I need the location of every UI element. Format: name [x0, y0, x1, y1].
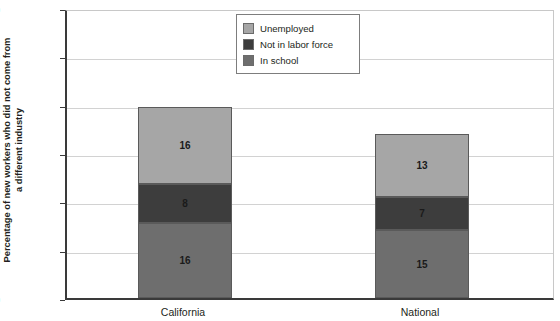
bar-segment[interactable]: 13 [375, 134, 469, 197]
y-axis-title: Percentage of new workers who did not co… [0, 0, 26, 300]
bar-value-label: 16 [179, 255, 190, 266]
legend-item-label: Not in labor force [260, 39, 333, 50]
legend-swatch-icon [243, 39, 254, 50]
legend-item[interactable]: Not in labor force [243, 36, 353, 52]
bar-group[interactable]: 16816 [138, 8, 232, 298]
legend-swatch-icon [243, 23, 254, 34]
x-axis-tick-label: California [161, 306, 205, 318]
stacked-bar-chart: Percentage of new workers who did not co… [0, 0, 560, 321]
bar-segment[interactable]: 7 [375, 197, 469, 231]
legend-swatch-icon [243, 55, 254, 66]
bar-segment[interactable]: 16 [138, 107, 232, 184]
legend-item-label: Unemployed [260, 23, 314, 34]
y-axis-title-text: Percentage of new workers who did not co… [1, 38, 25, 263]
legend-item[interactable]: Unemployed [243, 20, 353, 36]
bar-segment[interactable]: 8 [138, 184, 232, 223]
y-axis-tick-mark [60, 300, 65, 301]
bar-value-label: 13 [416, 160, 427, 171]
bar-group[interactable]: 15713 [375, 8, 469, 298]
chart-legend: UnemployedNot in labor forceIn school [236, 14, 360, 74]
bar-value-label: 8 [182, 198, 188, 209]
bar-segment[interactable]: 16 [138, 223, 232, 298]
bar-segment[interactable]: 15 [375, 230, 469, 298]
bar-value-label: 7 [419, 208, 425, 219]
x-axis-tick-label: National [401, 306, 440, 318]
legend-item-label: In school [260, 55, 298, 66]
bar-value-label: 16 [179, 140, 190, 151]
bar-value-label: 15 [416, 259, 427, 270]
legend-item[interactable]: In school [243, 52, 353, 68]
